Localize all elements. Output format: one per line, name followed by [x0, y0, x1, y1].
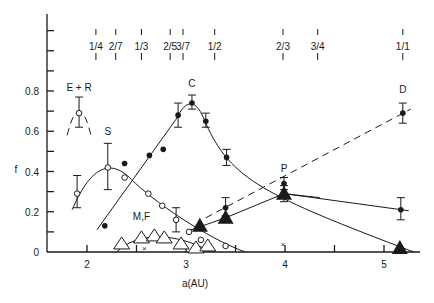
filled-circle-marker [398, 207, 404, 213]
open-circle-marker [186, 229, 192, 235]
open-circle-marker [173, 217, 179, 223]
filled-circle-marker [160, 147, 166, 153]
axes: 00.20.40.60.82345a(AU)f [15, 14, 420, 289]
x-tick-label: 2 [84, 259, 90, 270]
filled-circle-marker [175, 112, 181, 118]
p-branch-line [284, 194, 409, 211]
resonance-markers: 1/42/71/32/53/71/22/33/41/1 [89, 29, 410, 60]
y-tick-label: 0 [33, 247, 39, 258]
y-tick-label: 0.4 [25, 167, 39, 178]
y-tick-label: 0.6 [25, 126, 39, 137]
x-tick-label: 3 [183, 259, 189, 270]
y-tick-label: 0.2 [25, 207, 39, 218]
series-label: E + R [66, 82, 91, 93]
c-curve [97, 104, 414, 252]
resonance-label: 2/3 [276, 41, 290, 52]
resonance-label: 2/7 [109, 41, 123, 52]
filled-circle-marker [203, 118, 209, 124]
x-tick-label: 4 [282, 259, 288, 270]
filled-circle-marker [147, 153, 153, 159]
series-label: C [188, 78, 195, 89]
open-circle-marker [105, 165, 111, 171]
filled-circle-marker [224, 155, 230, 161]
x-axis-label: a(AU) [182, 278, 208, 289]
filled-circle-marker [122, 161, 128, 167]
open-circle-marker [146, 191, 152, 197]
y-axis-label: f [15, 164, 18, 175]
cross-marker: × [281, 240, 286, 249]
open-circle-marker [122, 175, 128, 181]
p-line [191, 194, 320, 230]
open-circle-marker [74, 191, 80, 197]
open-triangle-marker [114, 237, 130, 249]
resonance-fraction-chart: 00.20.40.60.82345a(AU)f 1/42/71/32/53/71… [0, 0, 434, 303]
x-tick-label: 5 [381, 259, 387, 270]
resonance-label: 1/3 [134, 41, 148, 52]
resonance-label: 1/4 [89, 41, 103, 52]
filled-circle-marker [102, 223, 108, 229]
cross-marker: × [142, 244, 147, 253]
d-line [206, 109, 411, 218]
series-label: M,F [133, 211, 150, 222]
resonance-label: 1/2 [208, 41, 222, 52]
open-circle-marker [198, 237, 204, 243]
open-circle-marker [76, 110, 82, 116]
series-label: P [281, 163, 288, 174]
resonance-label: 3/4 [311, 41, 325, 52]
resonance-label: 3/7 [176, 41, 190, 52]
y-tick-label: 0.8 [25, 86, 39, 97]
open-circle-marker [159, 203, 165, 209]
filled-circle-marker [223, 205, 229, 211]
filled-circle-marker [189, 100, 195, 106]
open-circle-marker [223, 243, 229, 249]
series-labels: E + RSCPDM,F [66, 78, 406, 222]
filled-circle-marker [281, 181, 287, 187]
filled-circle-marker [281, 191, 287, 197]
series-label: D [399, 84, 406, 95]
filled-triangle-marker [392, 240, 408, 254]
fit-curves [67, 104, 414, 252]
resonance-label: 1/1 [396, 41, 410, 52]
series-label: S [104, 126, 111, 137]
filled-circle-marker [400, 110, 406, 116]
